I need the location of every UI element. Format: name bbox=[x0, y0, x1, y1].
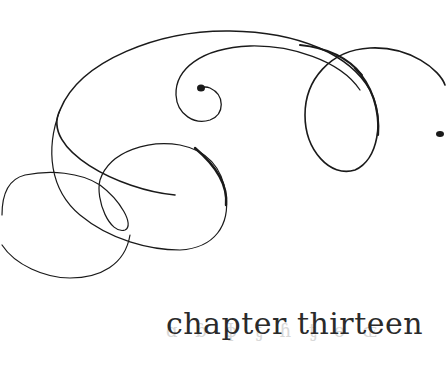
flourish-bottom-loop bbox=[2, 235, 130, 278]
chapter-heading: chapter thirteen bbox=[166, 306, 423, 341]
flourish-left-loop bbox=[2, 110, 227, 250]
right-terminal-dot bbox=[436, 131, 444, 137]
chapter-page: ɑ ɓ ɸ ƫ ɦ ƫ ɵ ɶ chapter thirteen bbox=[0, 0, 448, 382]
flourish-spiral bbox=[176, 46, 360, 121]
spiral-terminal-dot bbox=[197, 85, 205, 92]
flourish-main-arc bbox=[57, 31, 445, 195]
